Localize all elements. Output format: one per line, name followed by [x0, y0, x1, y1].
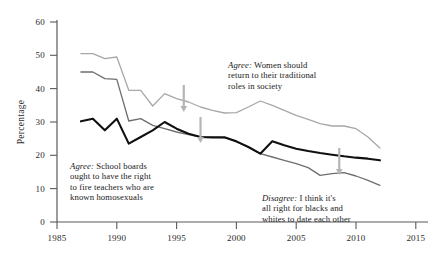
- y-tick-label-60: 60: [36, 17, 46, 27]
- annotation-line-2: ought to have the right: [70, 171, 154, 181]
- arrow-black-line-mid-head: [197, 137, 204, 143]
- line-chart-plot: 60 50 40 30 20 10 0 Percentage 1985 1990…: [0, 0, 437, 274]
- x-tick-label-1990: 1990: [107, 233, 126, 243]
- annotation-line-2: return to their traditional: [228, 70, 316, 80]
- pointer-arrows-group: [180, 85, 342, 175]
- arrow-women-line-head: [180, 106, 187, 112]
- arrow-black-line-right-head: [336, 169, 343, 175]
- annotation-line-1: School boards: [94, 161, 147, 171]
- annotation-line-4: known homosexuals: [70, 192, 154, 202]
- y-tick-label-50: 50: [36, 50, 46, 60]
- y-tick-marks: [50, 22, 57, 222]
- x-tick-label-2015: 2015: [406, 233, 425, 243]
- annotation-line-2: all right for blacks and: [262, 203, 351, 213]
- annotation-interracial-dating: Disagree: I think it's all right for bla…: [262, 193, 351, 224]
- annotation-emphasis: Agree:: [228, 60, 252, 70]
- y-tick-label-30: 30: [36, 117, 46, 127]
- annotation-line-3: whites to date each other: [262, 214, 351, 224]
- x-tick-label-1995: 1995: [167, 233, 186, 243]
- x-tick-label-1985: 1985: [48, 233, 67, 243]
- x-tick-label-2005: 2005: [287, 233, 306, 243]
- y-tick-label-10: 10: [36, 184, 46, 194]
- chart-container: 60 50 40 30 20 10 0 Percentage 1985 1990…: [0, 0, 437, 274]
- annotation-line-1: Women should: [252, 60, 307, 70]
- y-tick-label-20: 20: [36, 150, 46, 160]
- series-line-interracial-dating: [81, 119, 380, 161]
- y-axis-title: Percentage: [16, 100, 26, 145]
- annotation-line-1: I think it's: [297, 193, 335, 203]
- x-tick-label-2000: 2000: [227, 233, 246, 243]
- annotation-school-boards: Agree: School boards ought to have the r…: [70, 161, 154, 203]
- y-tick-label-40: 40: [36, 84, 46, 94]
- annotation-line-3: roles in society: [228, 81, 316, 91]
- annotation-emphasis: Agree:: [70, 161, 94, 171]
- annotation-women-traditional-roles: Agree: Women should return to their trad…: [228, 60, 316, 91]
- x-tick-marks: [57, 222, 416, 229]
- y-tick-label-0: 0: [40, 217, 45, 227]
- annotation-line-3: to fire teachers who are: [70, 182, 154, 192]
- x-tick-label-2010: 2010: [347, 233, 366, 243]
- annotation-emphasis: Disagree:: [262, 193, 297, 203]
